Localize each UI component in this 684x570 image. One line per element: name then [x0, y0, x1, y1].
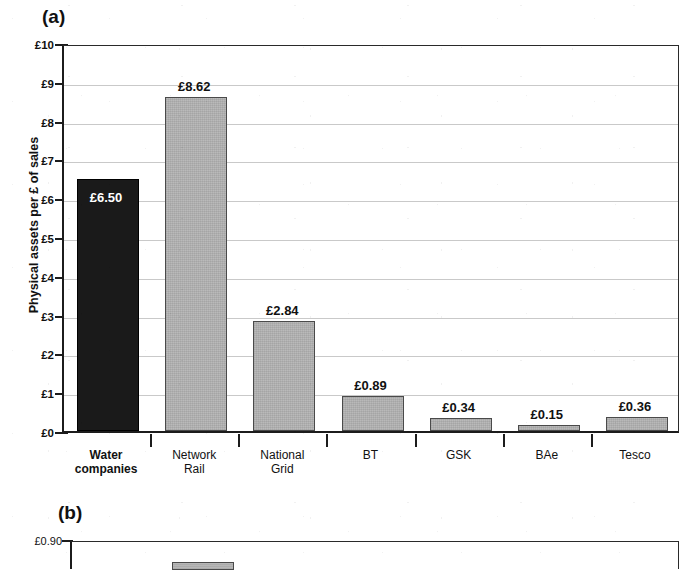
gridline	[64, 356, 678, 357]
bar	[342, 396, 404, 431]
category-label: BT	[326, 448, 414, 462]
bar-value-label: £8.62	[151, 79, 237, 94]
category-label-line: Water	[62, 448, 150, 462]
category-label: Watercompanies	[62, 448, 150, 476]
plot-area-a	[62, 45, 679, 433]
category-label-line: Rail	[150, 462, 238, 476]
category-label: NetworkRail	[150, 448, 238, 476]
y-tick-label: £7	[8, 155, 54, 167]
bar-value-label: £6.50	[63, 190, 149, 205]
category-tick	[238, 434, 240, 447]
bar	[253, 321, 315, 431]
y-tick-label: £0	[8, 427, 54, 439]
bar	[606, 417, 668, 431]
bar-value-label: £0.15	[504, 407, 590, 422]
category-label-line: Tesco	[591, 448, 679, 462]
y-tick-label: £8	[8, 117, 54, 129]
gridline	[64, 279, 678, 280]
gridline	[64, 162, 678, 163]
category-label-line: BT	[326, 448, 414, 462]
bar-value-label: £0.89	[328, 378, 414, 393]
y-tick-label: £2	[8, 349, 54, 361]
category-label-line: Grid	[238, 462, 326, 476]
category-label-line: BAe	[503, 448, 591, 462]
bar	[165, 97, 227, 431]
y-tick-label: £6	[8, 194, 54, 206]
panel-b-partial-bar	[172, 562, 234, 570]
y-tick-label: £10	[8, 39, 54, 51]
category-tick	[591, 434, 593, 447]
y-tick-label: £1	[8, 388, 54, 400]
category-label-line: GSK	[415, 448, 503, 462]
category-label-line: National	[238, 448, 326, 462]
gridline	[64, 201, 678, 202]
category-tick	[326, 434, 328, 447]
gridline	[64, 318, 678, 319]
category-label: GSK	[415, 448, 503, 462]
bar	[518, 425, 580, 431]
category-label-line: Network	[150, 448, 238, 462]
y-tick-label: £5	[8, 233, 54, 245]
panel-b-y-tick-label: £0.90	[6, 535, 62, 547]
plot-area-b	[70, 541, 679, 569]
gridline	[64, 124, 678, 125]
category-label-line: companies	[62, 462, 150, 476]
category-tick	[503, 434, 505, 447]
y-tick-label: £3	[8, 311, 54, 323]
category-label: NationalGrid	[238, 448, 326, 476]
category-tick	[415, 434, 417, 447]
y-tick-label: £4	[8, 272, 54, 284]
y-axis-title: Physical assets per £ of sales	[27, 105, 41, 345]
panel-a-label: (a)	[42, 6, 65, 28]
bar-value-label: £2.84	[239, 303, 325, 318]
bar-value-label: £0.34	[416, 400, 502, 415]
category-label: BAe	[503, 448, 591, 462]
category-label: Tesco	[591, 448, 679, 462]
bar	[77, 179, 139, 431]
bar-value-label: £0.36	[592, 399, 678, 414]
y-tick-label: £9	[8, 78, 54, 90]
category-tick	[150, 434, 152, 447]
chart-panel-a: (a) Physical assets per £ of sales £0£1£…	[0, 0, 684, 492]
gridline	[64, 240, 678, 241]
bar	[430, 418, 492, 431]
